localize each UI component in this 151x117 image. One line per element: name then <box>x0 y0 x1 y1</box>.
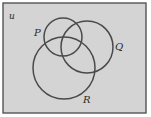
set-q-label: Q <box>115 41 123 52</box>
set-p-label: P <box>33 27 41 38</box>
universal-set-label: u <box>9 11 15 21</box>
set-r-label: R <box>82 94 91 105</box>
venn-diagram: u P Q R <box>0 0 151 117</box>
